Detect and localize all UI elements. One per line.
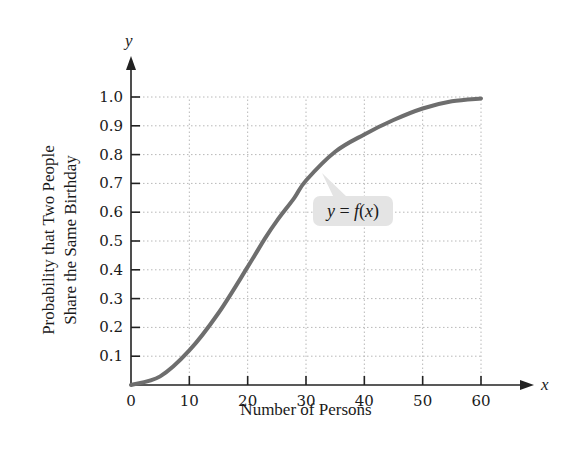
y-tick-label: 0.3 [99,290,123,308]
y-axis-variable: y [123,31,133,50]
x-axis-arrow-icon [520,380,534,390]
series-line [131,98,481,385]
grid [131,97,481,385]
annotation-pointer [322,173,348,198]
chart: x y 0.10.20.30.40.50.60.70.80.91.0010203… [0,0,579,458]
x-axis-variable: x [540,375,549,394]
y-tick-label: 0.7 [99,174,123,192]
annotation-label: y = f(x) [325,201,379,222]
series [131,98,481,385]
y-tick-label: 0.1 [99,347,123,365]
y-axis-title-line-2: Share the Same Birthday [61,155,80,325]
x-tick-label: 0 [126,392,136,410]
y-tick-label: 0.4 [99,261,123,279]
y-axis-title: Probability that Two People Share the Sa… [39,145,80,335]
x-tick-label: 50 [413,392,432,410]
x-axis-title: Number of Persons [240,400,371,419]
x-tick-label: 10 [180,392,199,410]
y-tick-label: 1.0 [99,88,123,106]
y-tick-label: 0.8 [99,146,123,164]
tick-labels: 0.10.20.30.40.50.60.70.80.91.00102030405… [99,88,490,410]
y-tick-label: 0.9 [99,117,123,135]
y-axis-title-line-1: Probability that Two People [39,145,58,335]
y-axis-arrow-icon [126,56,136,70]
x-tick-label: 60 [471,392,490,410]
y-tick-label: 0.6 [99,203,123,221]
y-tick-label: 0.5 [99,232,123,250]
y-tick-label: 0.2 [99,318,123,336]
annotation: y = f(x) [313,173,393,226]
